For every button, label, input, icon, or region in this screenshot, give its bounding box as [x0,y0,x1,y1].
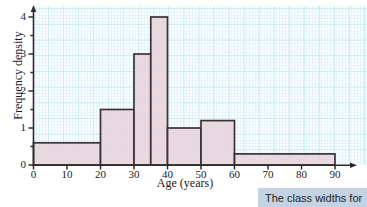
histogram-bar [134,54,151,165]
histogram-bar [151,17,168,165]
histogram-bar [168,128,202,165]
histogram-bar [201,121,235,165]
x-tick-label: 80 [290,168,314,180]
histogram-bar [101,110,135,166]
x-tick-label: 10 [55,168,79,180]
histogram-figure: 0102030405060708090 01234 Age (years) Fr… [0,0,367,207]
callout-text: The class widths for [265,192,362,204]
x-axis-arrow [350,162,357,168]
histogram-bars [34,17,336,165]
x-tick-label: 20 [89,168,113,180]
callout-box: The class widths for [258,188,367,207]
y-tick-label: 0 [12,158,26,170]
x-tick-label: 70 [256,168,280,180]
x-tick-label: 90 [323,168,347,180]
y-axis-title: Frequency density [11,16,26,136]
y-axis-arrow [31,5,37,12]
x-axis-title: Age (years) [120,176,250,191]
histogram-bar [235,154,336,165]
histogram-bar [34,143,101,165]
